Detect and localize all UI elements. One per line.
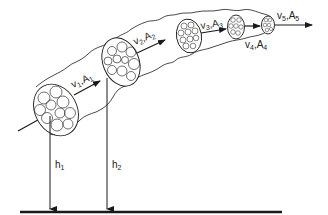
stream-tube-diagram: v1,A1 v2,A2 v3,A3 v4,A4 v5,A5 h1 h2 xyxy=(0,0,328,215)
height-label-1: h1 xyxy=(55,159,65,171)
height-label-2: h2 xyxy=(112,159,122,171)
label-section-4: v4,A4 xyxy=(245,39,267,51)
cross-section-5 xyxy=(262,16,275,34)
label-section-5: v5,A5 xyxy=(277,10,299,22)
label-section-1: v1,A1 xyxy=(69,71,94,91)
cross-section-4 xyxy=(228,15,245,39)
label-section-2: v2,A2 xyxy=(132,28,157,48)
